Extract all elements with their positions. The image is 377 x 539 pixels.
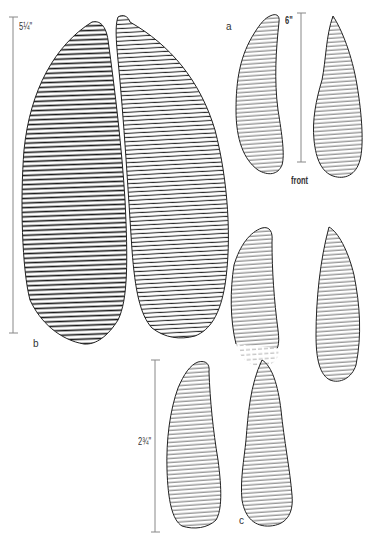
scale-label-a: 6" (285, 16, 293, 26)
hoof-c-left-claw (167, 361, 221, 528)
scale-bar-a (297, 13, 306, 162)
scale-label-c: 2¾" (138, 437, 151, 447)
group-label-b: b (33, 339, 39, 349)
hoof-b-right-claw (116, 16, 228, 338)
scale-label-b: 5¼" (19, 22, 32, 32)
group-label-c: c (239, 516, 244, 526)
group-label-a: a (226, 22, 232, 32)
hoof-b-left-claw (22, 22, 127, 344)
caption-front: front (291, 176, 308, 186)
scale-bar-b (9, 17, 18, 333)
hoof-tracks-illustration (0, 0, 377, 539)
hoof-a-left-claw (236, 15, 283, 174)
hoof-c-right-claw (241, 360, 292, 526)
hoof-middle-left-claw (231, 228, 279, 355)
hoof-middle-right-claw (316, 227, 360, 381)
scale-bar-c (151, 360, 160, 532)
hoof-a-right-claw (313, 16, 362, 177)
